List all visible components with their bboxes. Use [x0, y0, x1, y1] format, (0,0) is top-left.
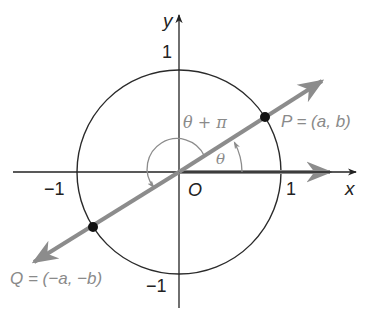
tick-x-1: 1: [286, 179, 296, 199]
point-P-label: P = (a, b): [281, 112, 351, 131]
x-axis-label: x: [344, 178, 356, 199]
origin-label: O: [188, 180, 202, 200]
y-axis-label: y: [161, 10, 174, 31]
unit-circle-diagram: y x O 1 −1 1 −1 θ + π θ P = (a, b) Q = (…: [0, 0, 384, 312]
point-Q: [88, 222, 98, 232]
point-P: [260, 112, 270, 122]
tick-y-1: 1: [162, 42, 172, 62]
tick-y-neg1: −1: [146, 276, 167, 296]
theta-label: θ: [216, 150, 225, 168]
tick-x-neg1: −1: [44, 179, 65, 199]
point-Q-label: Q = (−a, −b): [10, 269, 102, 288]
theta-plus-pi-label: θ + π: [183, 113, 227, 132]
theta-arc: [235, 143, 243, 173]
